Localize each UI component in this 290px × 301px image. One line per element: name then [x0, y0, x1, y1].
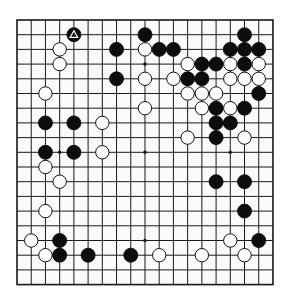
- white-stone[interactable]: [96, 146, 109, 159]
- white-stone[interactable]: [138, 72, 151, 85]
- star-point: [143, 239, 147, 243]
- black-stone[interactable]: [209, 101, 223, 115]
- black-stone[interactable]: [238, 204, 252, 218]
- white-stone[interactable]: [181, 87, 194, 100]
- black-stone[interactable]: [252, 234, 266, 248]
- black-stone[interactable]: [81, 248, 95, 262]
- black-stone[interactable]: [223, 116, 237, 130]
- white-stone[interactable]: [224, 57, 237, 70]
- white-stone[interactable]: [238, 249, 251, 262]
- white-stone[interactable]: [53, 175, 66, 188]
- black-stone[interactable]: [223, 42, 237, 56]
- white-stone[interactable]: [195, 102, 208, 115]
- black-stone[interactable]: [53, 248, 67, 262]
- white-stone[interactable]: [252, 72, 265, 85]
- star-point: [229, 151, 233, 155]
- white-stone[interactable]: [238, 131, 251, 144]
- black-stone[interactable]: [67, 116, 81, 130]
- white-stone[interactable]: [238, 72, 251, 85]
- black-stone[interactable]: [209, 116, 223, 130]
- white-stone[interactable]: [138, 43, 151, 56]
- white-stone[interactable]: [153, 249, 166, 262]
- white-stone[interactable]: [138, 102, 151, 115]
- white-stone[interactable]: [224, 72, 237, 85]
- white-stone[interactable]: [224, 234, 237, 247]
- white-stone[interactable]: [39, 160, 52, 173]
- black-stone[interactable]: [110, 42, 124, 56]
- black-stone[interactable]: [238, 57, 252, 71]
- white-stone[interactable]: [39, 249, 52, 262]
- white-stone[interactable]: [53, 57, 66, 70]
- white-stone[interactable]: [39, 87, 52, 100]
- black-stone[interactable]: [195, 57, 209, 71]
- black-stone[interactable]: [209, 57, 223, 71]
- white-stone[interactable]: [181, 131, 194, 144]
- white-stone[interactable]: [167, 72, 180, 85]
- black-stone[interactable]: [238, 28, 252, 42]
- white-stone[interactable]: [53, 43, 66, 56]
- white-stone[interactable]: [195, 249, 208, 262]
- star-point: [143, 62, 147, 66]
- black-stone[interactable]: [38, 116, 52, 130]
- black-stone[interactable]: [195, 72, 209, 86]
- white-stone[interactable]: [224, 102, 237, 115]
- go-board-canvas[interactable]: [0, 0, 290, 301]
- black-stone[interactable]: [138, 28, 152, 42]
- black-stone[interactable]: [252, 87, 266, 101]
- white-stone[interactable]: [96, 116, 109, 129]
- white-stone[interactable]: [39, 204, 52, 217]
- black-stone[interactable]: [152, 42, 166, 56]
- black-stone[interactable]: [209, 131, 223, 145]
- black-stone[interactable]: [209, 175, 223, 189]
- black-stone[interactable]: [238, 101, 252, 115]
- black-stone[interactable]: [124, 248, 138, 262]
- white-stone[interactable]: [25, 234, 38, 247]
- black-stone[interactable]: [67, 145, 81, 159]
- black-stone[interactable]: [252, 42, 266, 56]
- white-stone[interactable]: [209, 87, 222, 100]
- black-stone[interactable]: [181, 72, 195, 86]
- white-stone[interactable]: [181, 57, 194, 70]
- black-stone[interactable]: [53, 234, 67, 248]
- black-stone[interactable]: [238, 175, 252, 189]
- white-stone[interactable]: [195, 87, 208, 100]
- go-board[interactable]: [0, 0, 290, 301]
- star-point: [58, 151, 62, 155]
- black-stone[interactable]: [110, 72, 124, 86]
- black-stone[interactable]: [238, 42, 252, 56]
- black-stone[interactable]: [166, 42, 180, 56]
- black-stone[interactable]: [38, 145, 52, 159]
- star-point: [143, 151, 147, 155]
- white-stone[interactable]: [252, 57, 265, 70]
